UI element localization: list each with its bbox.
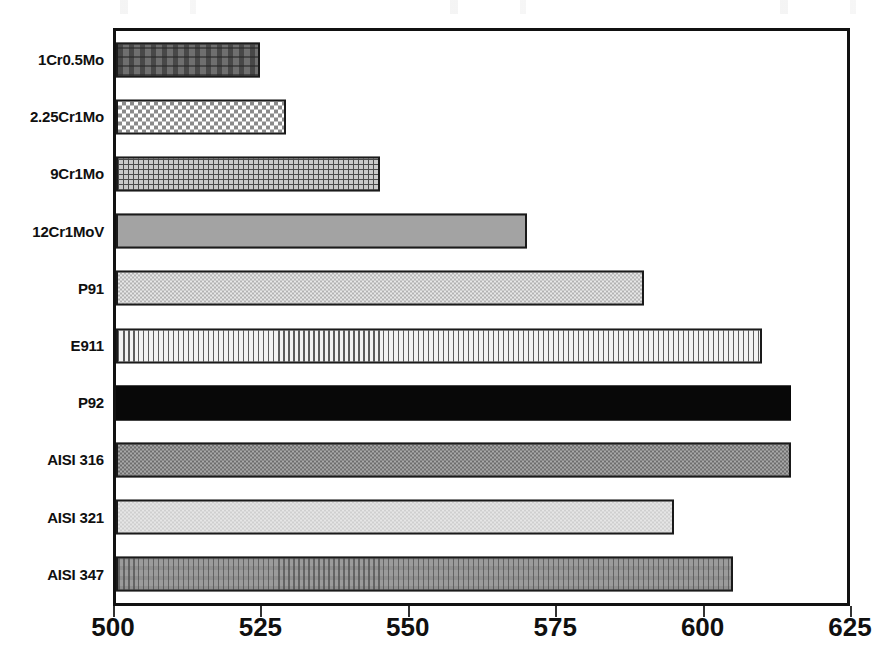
y-axis-label-9cr1mo: 9Cr1Mo [0, 145, 104, 202]
bar-12cr1mov [116, 214, 527, 249]
x-axis-tick-labels: 500525550575600625 [0, 612, 870, 649]
bar-aisi-316 [116, 442, 791, 477]
bar-row [116, 374, 850, 431]
y-axis-label-aisi-321: AISI 321 [0, 489, 104, 546]
bar-2-25cr1mo [116, 99, 286, 134]
bar-row [116, 260, 850, 317]
y-axis-label-12cr1mov: 12Cr1MoV [0, 203, 104, 260]
bar-aisi-321 [116, 500, 674, 535]
scan-artifact [0, 0, 870, 14]
x-tick-label-600: 600 [681, 612, 724, 643]
bar-aisi-347 [116, 557, 733, 592]
x-tick-label-575: 575 [533, 612, 576, 643]
x-tick-label-500: 500 [91, 612, 134, 643]
bar-1cr0-5mo [116, 42, 260, 77]
bar-p92 [116, 385, 791, 420]
y-axis-label-aisi-347: AISI 347 [0, 546, 104, 603]
y-axis-label-p92: P92 [0, 374, 104, 431]
bar-9cr1mo [116, 156, 380, 191]
bar-rows [116, 31, 850, 603]
bar-row [116, 88, 850, 145]
bar-row [116, 431, 850, 488]
bar-row [116, 31, 850, 88]
x-tick-label-525: 525 [239, 612, 282, 643]
y-axis-label-2-25cr1mo: 2.25Cr1Mo [0, 88, 104, 145]
y-axis-category-labels: 1Cr0.5Mo2.25Cr1Mo9Cr1Mo12Cr1MoVP91E911P9… [0, 31, 104, 603]
bar-row [116, 145, 850, 202]
bar-p91 [116, 271, 644, 306]
y-axis-label-1cr0-5mo: 1Cr0.5Mo [0, 31, 104, 88]
x-tick-label-550: 550 [386, 612, 429, 643]
bar-row [116, 203, 850, 260]
y-axis-label-e911: E911 [0, 317, 104, 374]
y-axis-label-p91: P91 [0, 260, 104, 317]
bar-e911 [116, 328, 762, 363]
x-tick-label-625: 625 [828, 612, 871, 643]
bar-row [116, 317, 850, 374]
bar-row [116, 489, 850, 546]
y-axis-label-aisi-316: AISI 316 [0, 431, 104, 488]
bar-row [116, 546, 850, 603]
